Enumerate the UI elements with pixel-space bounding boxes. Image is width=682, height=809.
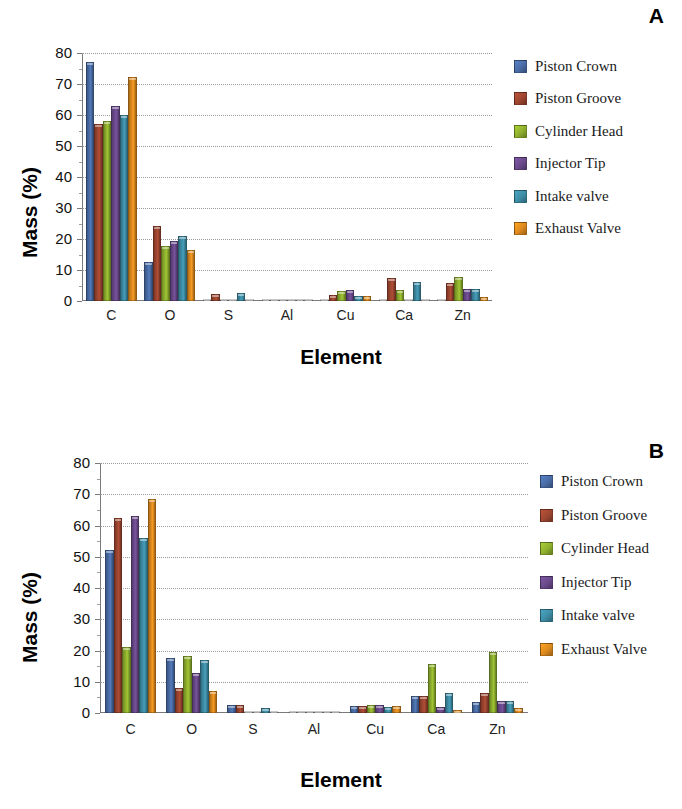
legend-swatch — [540, 643, 553, 656]
bar — [94, 124, 103, 301]
legend-label: Cylinder Head — [535, 123, 623, 140]
y-axis-tick-label: 80 — [56, 454, 90, 471]
legend-item: Piston Groove — [540, 499, 649, 533]
bar-top-highlight — [271, 712, 278, 714]
bar-top-highlight — [393, 707, 400, 709]
bar-top-highlight — [140, 539, 147, 541]
legend-b: Piston CrownPiston GrooveCylinder HeadIn… — [540, 465, 649, 666]
bar — [128, 77, 137, 301]
bar-top-highlight — [307, 712, 314, 714]
bar-group — [227, 463, 278, 713]
bar-top-highlight — [385, 708, 392, 710]
legend-swatch — [540, 475, 553, 488]
legend-swatch — [540, 609, 553, 622]
x-axis-tick-label: C — [100, 721, 161, 737]
bar-top-highlight — [355, 297, 362, 299]
bar — [497, 701, 506, 713]
bar — [148, 499, 157, 713]
bar — [320, 299, 329, 301]
y-axis-tick-label: 0 — [56, 704, 90, 721]
bar-top-highlight — [305, 300, 312, 302]
bar — [192, 673, 201, 713]
bar-group — [203, 53, 254, 301]
bar — [297, 711, 306, 713]
y-axis-minor-tick — [97, 541, 100, 542]
legend-label: Piston Crown — [535, 58, 617, 75]
bar-top-highlight — [171, 242, 178, 244]
bar-top-highlight — [364, 297, 371, 299]
y-axis-minor-tick — [79, 255, 82, 256]
bar — [428, 664, 437, 713]
y-axis-tick — [95, 526, 100, 527]
legend-item: Injector Tip — [514, 148, 623, 181]
bar-top-highlight — [104, 122, 111, 124]
bar-top-highlight — [438, 300, 445, 302]
y-axis-tick-label: 20 — [38, 230, 72, 247]
bar-top-highlight — [201, 661, 208, 663]
legend-item: Cylinder Head — [540, 532, 649, 566]
bar-top-highlight — [351, 707, 358, 709]
bar-top-highlight — [228, 706, 235, 708]
bar-top-highlight — [330, 296, 337, 298]
bar-top-highlight — [210, 692, 217, 694]
bar — [445, 693, 454, 713]
legend-item: Piston Crown — [514, 50, 623, 83]
bar-group — [86, 53, 137, 301]
y-axis-minor-tick — [79, 286, 82, 287]
bar-top-highlight — [315, 712, 322, 714]
bar-top-highlight — [246, 300, 253, 302]
bar — [111, 106, 120, 301]
bar-top-highlight — [162, 247, 169, 249]
legend-label: Piston Groove — [561, 507, 647, 524]
legend-a: Piston CrownPiston GrooveCylinder HeadIn… — [514, 50, 623, 245]
bar — [471, 289, 480, 301]
bar-top-highlight — [290, 712, 297, 714]
x-axis-tick-label: Zn — [433, 307, 492, 323]
bar-top-highlight — [95, 125, 102, 127]
y-axis-tick — [95, 619, 100, 620]
bar — [436, 707, 445, 713]
bar-top-highlight — [454, 711, 461, 713]
bar — [153, 226, 162, 301]
bar — [350, 706, 359, 713]
x-axis-tick-label: Cu — [316, 307, 375, 323]
y-axis-tick — [77, 270, 82, 271]
legend-item: Intake valve — [540, 599, 649, 633]
y-axis-tick-label: 30 — [38, 199, 72, 216]
y-axis-tick-label: 10 — [56, 673, 90, 690]
y-axis-tick-label: 70 — [56, 485, 90, 502]
x-axis-title-b: Element — [0, 768, 682, 792]
legend-swatch — [514, 222, 527, 235]
panel-letter-b: B — [649, 439, 664, 463]
y-axis-title-b: Mass (%) — [18, 572, 42, 663]
y-axis-minor-tick — [79, 224, 82, 225]
y-axis-tick — [95, 682, 100, 683]
bar-top-highlight — [245, 712, 252, 714]
x-axis-tick-label: Al — [283, 721, 344, 737]
y-axis-tick — [77, 115, 82, 116]
bar — [363, 296, 372, 301]
bar-top-highlight — [298, 712, 305, 714]
bar — [489, 652, 498, 713]
y-axis-tick-label: 50 — [38, 137, 72, 154]
bar-group — [350, 463, 401, 713]
bar — [183, 656, 192, 713]
x-axis-tick-label: Ca — [375, 307, 434, 323]
bar — [144, 262, 153, 301]
bar — [392, 706, 401, 713]
bar — [270, 711, 279, 713]
bar-top-highlight — [121, 116, 128, 118]
bar-top-highlight — [412, 697, 419, 699]
bar — [358, 706, 367, 713]
bar — [237, 293, 246, 301]
bar — [178, 236, 187, 301]
bar — [387, 278, 396, 301]
legend-swatch — [514, 157, 527, 170]
bar — [103, 121, 112, 301]
bar-group — [166, 463, 217, 713]
bar — [323, 711, 332, 713]
bar-top-highlight — [106, 551, 113, 553]
bar — [211, 294, 220, 301]
legend-label: Cylinder Head — [561, 540, 649, 557]
y-axis-tick-label: 80 — [38, 44, 72, 61]
